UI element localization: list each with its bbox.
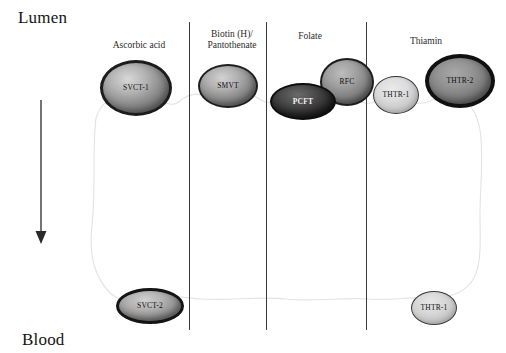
transporter-smvt-label: SMVT: [217, 82, 239, 90]
transporter-rfc-label: RFC: [340, 78, 355, 86]
transporter-pcft[interactable]: PCFT: [270, 83, 336, 120]
transporter-thtr1-basolateral[interactable]: THTR-1: [411, 291, 457, 325]
transporter-svct2-label: SVCT-2: [137, 302, 163, 310]
column-label-folate: Folate: [272, 31, 348, 42]
transporter-svct2[interactable]: SVCT-2: [116, 288, 184, 324]
transporter-thtr1-basolateral-label: THTR-1: [420, 304, 447, 312]
transporter-thtr1-apical[interactable]: THTR-1: [373, 76, 419, 114]
column-divider-1: [189, 22, 190, 330]
figure-canvas: Lumen Blood Ascorbic acid Biotin (H)/ Pa…: [0, 0, 506, 353]
blood-label: Blood: [22, 330, 65, 350]
transporter-svct1[interactable]: SVCT-1: [100, 60, 172, 116]
transporter-smvt[interactable]: SMVT: [198, 64, 258, 108]
transporter-svct1-label: SVCT-1: [123, 84, 149, 92]
lumen-label: Lumen: [18, 8, 67, 28]
column-label-thiamin: Thiamin: [386, 36, 466, 47]
transporter-thtr2-label: THTR-2: [446, 77, 473, 85]
column-divider-2: [266, 22, 267, 330]
column-label-ascorbic-acid: Ascorbic acid: [96, 40, 182, 51]
transporter-thtr2[interactable]: THTR-2: [425, 54, 495, 108]
transporter-thtr1-apical-label: THTR-1: [382, 91, 409, 99]
column-label-biotin-pantothenate: Biotin (H)/ Pantothenate: [192, 29, 272, 51]
transporter-pcft-label: PCFT: [293, 98, 313, 106]
